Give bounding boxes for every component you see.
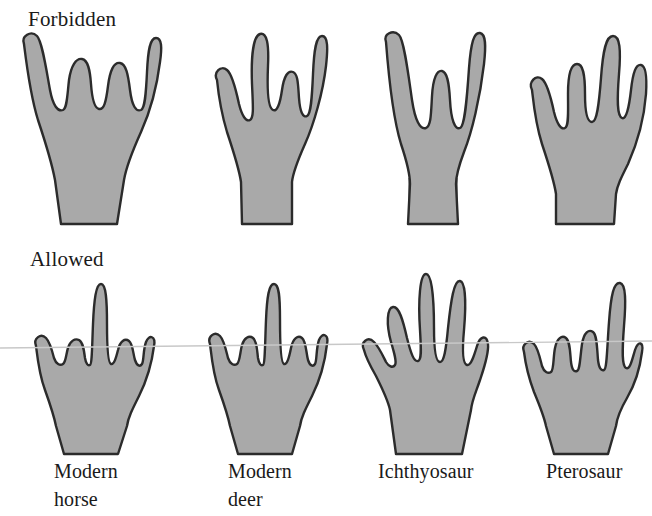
limb-morphology-figure: Forbidden Allowed Moder [0, 0, 652, 516]
forbidden-limb-1 [14, 28, 164, 228]
specimen-label-pterosaur: Pterosaur [546, 457, 622, 485]
forbidden-limb-2 [200, 28, 330, 228]
specimen-label-ichthyosaur: Ichthyosaur [378, 457, 474, 485]
allowed-limb-horse [22, 278, 158, 458]
row-label-allowed: Allowed [30, 247, 104, 272]
allowed-limb-deer [196, 278, 332, 458]
specimen-label-deer: Modern deer [228, 457, 292, 513]
allowed-limb-pterosaur [510, 278, 646, 458]
forbidden-limb-4 [518, 28, 652, 228]
specimen-label-horse: Modern horse [54, 457, 118, 513]
allowed-limb-ichthyosaur [352, 258, 502, 458]
forbidden-limb-3 [368, 28, 498, 228]
